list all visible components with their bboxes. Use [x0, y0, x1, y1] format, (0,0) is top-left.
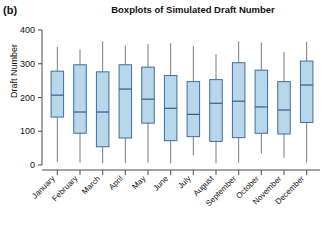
- boxplot-box: [232, 41, 245, 162]
- y-tick-label: 400: [20, 25, 35, 35]
- x-tick-label: May: [130, 174, 147, 191]
- y-tick-label: 100: [20, 126, 35, 136]
- x-tick-label: June: [151, 174, 170, 193]
- y-axis-ticks: 0100200300400: [20, 25, 42, 170]
- boxplot-chart: 0100200300400 JanuaryFebruaryMarchAprilM…: [0, 0, 323, 233]
- box-iqr: [187, 82, 200, 137]
- boxplot-box: [210, 54, 223, 163]
- boxplot-series: [51, 41, 313, 163]
- x-axis-labels: JanuaryFebruaryMarchAprilMayJuneJulyAugu…: [30, 174, 306, 209]
- box-iqr: [278, 82, 291, 134]
- boxplot-box: [74, 50, 87, 163]
- boxplot-box: [164, 43, 177, 163]
- x-tick-label: July: [176, 174, 192, 190]
- box-iqr: [96, 72, 109, 147]
- x-tick-label: February: [50, 174, 79, 203]
- x-tick-label: March: [80, 174, 102, 196]
- boxplot-box: [187, 46, 200, 156]
- box-iqr: [300, 61, 313, 122]
- boxplot-box: [119, 46, 132, 163]
- y-tick-label: 0: [30, 160, 35, 170]
- y-tick-label: 300: [20, 59, 35, 69]
- boxplot-box: [278, 52, 291, 158]
- y-tick-label: 200: [20, 93, 35, 103]
- boxplot-box: [300, 42, 313, 163]
- box-iqr: [210, 80, 223, 142]
- box-iqr: [232, 63, 245, 138]
- boxplot-box: [255, 42, 268, 153]
- box-iqr: [119, 65, 132, 138]
- figure-container: (b) Boxplots of Simulated Draft Number D…: [0, 0, 323, 233]
- boxplot-box: [142, 44, 155, 162]
- x-tick-label: April: [107, 174, 125, 192]
- box-iqr: [51, 71, 64, 117]
- box-iqr: [142, 67, 155, 123]
- box-iqr: [255, 70, 267, 133]
- box-iqr: [74, 65, 87, 134]
- boxplot-box: [96, 41, 109, 163]
- boxplot-box: [51, 47, 64, 162]
